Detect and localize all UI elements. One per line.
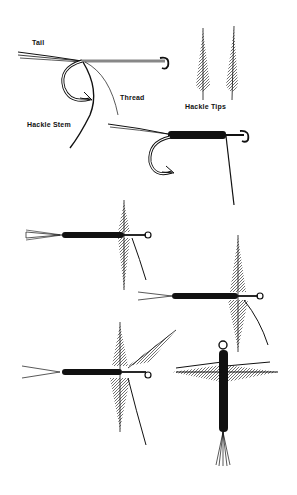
label-hackle-stem: Hackle Stem: [27, 121, 71, 128]
hackle-tips: [196, 26, 238, 100]
label-hackle-tips: Hackle Tips: [185, 103, 226, 110]
step-6-finished-fly: [172, 341, 278, 466]
fly-tying-diagram: [0, 0, 297, 495]
step-3-hackle-wing: [26, 200, 151, 290]
step-5-second-hackle: [22, 322, 176, 445]
step-4-hackle-wing: [138, 235, 268, 352]
label-thread: Thread: [120, 94, 145, 101]
step-2-wrapped-body: [108, 124, 248, 205]
label-tail: Tail: [32, 39, 44, 46]
step-1-hook: [18, 52, 168, 148]
